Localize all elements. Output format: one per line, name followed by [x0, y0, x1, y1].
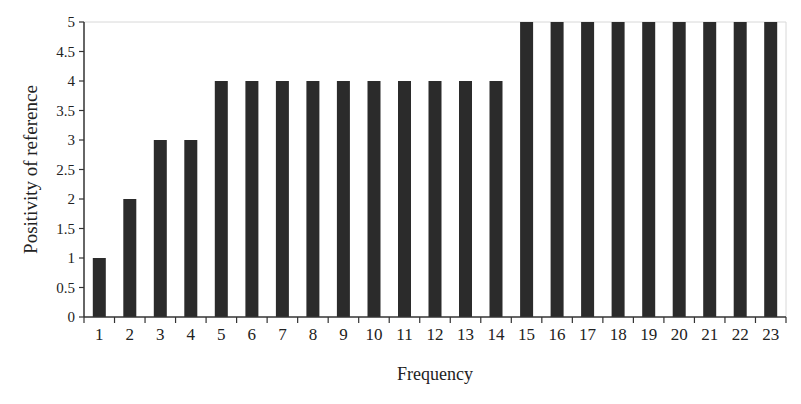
y-tick-label: 3: [68, 132, 76, 148]
bar-9: [337, 81, 350, 317]
bar-1: [93, 258, 106, 317]
x-tick-label: 13: [457, 325, 474, 344]
x-tick-label: 7: [278, 325, 287, 344]
bar-chart: 00.511.522.533.544.551234567891011121314…: [0, 0, 801, 404]
x-tick-label: 19: [640, 325, 657, 344]
x-tick-label: 20: [671, 325, 688, 344]
y-tick-label: 1.5: [56, 221, 75, 237]
bar-3: [154, 140, 167, 317]
y-tick-label: 1: [68, 250, 76, 266]
y-tick-label: 0: [68, 309, 76, 325]
x-tick-label: 10: [365, 325, 382, 344]
bar-12: [429, 81, 442, 317]
bar-8: [306, 81, 319, 317]
bar-15: [520, 22, 533, 317]
x-tick-label: 4: [187, 325, 196, 344]
x-tick-label: 21: [701, 325, 718, 344]
y-axis-label: Positivity of reference: [20, 85, 41, 254]
x-tick-label: 2: [126, 325, 135, 344]
bar-13: [459, 81, 472, 317]
bar-22: [734, 22, 747, 317]
x-tick-label: 17: [579, 325, 597, 344]
x-tick-label: 16: [549, 325, 566, 344]
bar-6: [245, 81, 258, 317]
bar-23: [764, 22, 777, 317]
x-tick-label: 11: [396, 325, 412, 344]
x-tick-label: 6: [248, 325, 257, 344]
y-tick-label: 2: [68, 191, 76, 207]
bar-19: [642, 22, 655, 317]
bar-5: [215, 81, 228, 317]
bar-11: [398, 81, 411, 317]
y-tick-label: 2.5: [56, 162, 75, 178]
bar-7: [276, 81, 289, 317]
x-tick-label: 23: [762, 325, 779, 344]
x-tick-label: 14: [488, 325, 506, 344]
x-tick-label: 18: [610, 325, 627, 344]
bar-10: [368, 81, 381, 317]
x-tick-label: 5: [217, 325, 226, 344]
x-tick-label: 3: [156, 325, 165, 344]
x-tick-label: 8: [309, 325, 318, 344]
bar-20: [673, 22, 686, 317]
y-tick-label: 5: [68, 14, 76, 30]
bar-16: [551, 22, 564, 317]
bar-2: [123, 199, 136, 317]
chart-svg: 00.511.522.533.544.551234567891011121314…: [0, 0, 801, 404]
y-tick-label: 0.5: [56, 280, 75, 296]
bar-18: [612, 22, 625, 317]
y-tick-label: 3.5: [56, 103, 75, 119]
bar-17: [581, 22, 594, 317]
y-tick-label: 4: [68, 73, 76, 89]
x-tick-label: 9: [339, 325, 348, 344]
y-tick-label: 4.5: [56, 44, 75, 60]
x-axis-label: Frequency: [397, 364, 473, 384]
x-tick-label: 12: [427, 325, 444, 344]
x-tick-label: 1: [95, 325, 104, 344]
bar-4: [184, 140, 197, 317]
bar-14: [490, 81, 503, 317]
x-tick-label: 15: [518, 325, 535, 344]
bar-21: [703, 22, 716, 317]
x-tick-label: 22: [732, 325, 749, 344]
